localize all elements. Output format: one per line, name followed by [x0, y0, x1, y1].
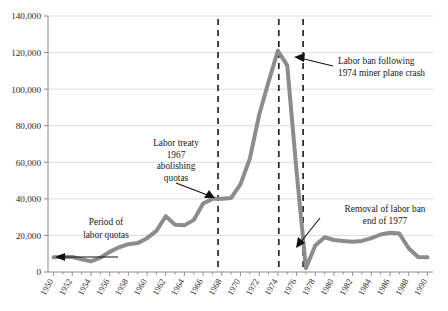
annotation-labor-treaty-line: Labor treaty: [153, 138, 199, 148]
y-axis-ticks: [44, 16, 48, 272]
x-axis-tick-label: 1964: [169, 276, 187, 296]
line-chart: 020,00040,00060,00080,000100,000120,0001…: [0, 0, 448, 311]
y-axis-tick-label: 100,000: [11, 85, 41, 95]
x-axis-tick-label: 1960: [132, 277, 149, 297]
x-axis-tick-label: 1954: [75, 276, 93, 296]
x-axis-tick-label: 1976: [281, 276, 299, 296]
x-axis-tick-label: 1974: [262, 276, 280, 296]
x-axis-tick-label: 1982: [337, 277, 354, 297]
x-axis-tick-label: 1966: [188, 276, 206, 296]
y-axis-tick-labels: 020,00040,00060,00080,000100,000120,0001…: [11, 11, 41, 277]
x-axis-tick-label: 1980: [318, 277, 335, 297]
x-axis-ticks: [54, 272, 428, 276]
x-axis-tick-label: 1950: [38, 277, 55, 297]
x-axis-tick-label: 1990: [412, 277, 429, 297]
annotation-labor-quotas-line: Period of: [89, 217, 124, 227]
annotation-labor-ban-line: 1974 miner plane crash: [338, 68, 425, 78]
y-axis-tick-label: 80,000: [16, 121, 42, 131]
x-axis-tick-label: 1956: [94, 276, 112, 296]
x-axis-tick-label: 1968: [206, 277, 223, 297]
x-axis-tick-label: 1970: [225, 277, 242, 297]
y-axis-tick-label: 60,000: [16, 158, 42, 168]
annotation-labor-ban-line: Labor ban following: [338, 56, 415, 66]
x-axis-tick-label: 1972: [244, 277, 261, 297]
y-axis-tick-label: 120,000: [11, 48, 41, 58]
y-axis-tick-label: 20,000: [16, 231, 42, 241]
annotation-labor-quotas-line: labor quotas: [83, 230, 129, 240]
x-axis-tick-label: 1978: [300, 277, 317, 297]
annotation-removal-ban-line: end of 1977: [363, 216, 408, 226]
x-axis-tick-label: 1958: [113, 277, 130, 297]
annotation-labor-treaty-line: quotas: [164, 173, 189, 183]
y-axis-tick-label: 40,000: [16, 194, 42, 204]
x-axis-tick-label: 1984: [356, 276, 374, 296]
chart-container: 020,00040,00060,00080,000100,000120,0001…: [0, 0, 448, 311]
annotation-labor-treaty-line: 1967: [167, 150, 186, 160]
y-axis-tick-label: 140,000: [11, 11, 41, 21]
annotation-labor-ban: Labor ban following1974 miner plane cras…: [338, 56, 425, 78]
x-axis-tick-labels: 1950195219541956195819601962196419661968…: [38, 276, 429, 296]
y-axis-tick-label: 0: [36, 267, 41, 277]
annotation-labor-treaty-line: abolishing: [157, 161, 196, 171]
x-axis-tick-label: 1988: [393, 277, 410, 297]
annotation-removal-ban-line: Removal of labor ban: [345, 204, 426, 214]
x-axis-tick-label: 1952: [57, 277, 74, 297]
x-axis-tick-label: 1962: [150, 277, 167, 297]
x-axis-tick-label: 1986: [374, 276, 392, 296]
